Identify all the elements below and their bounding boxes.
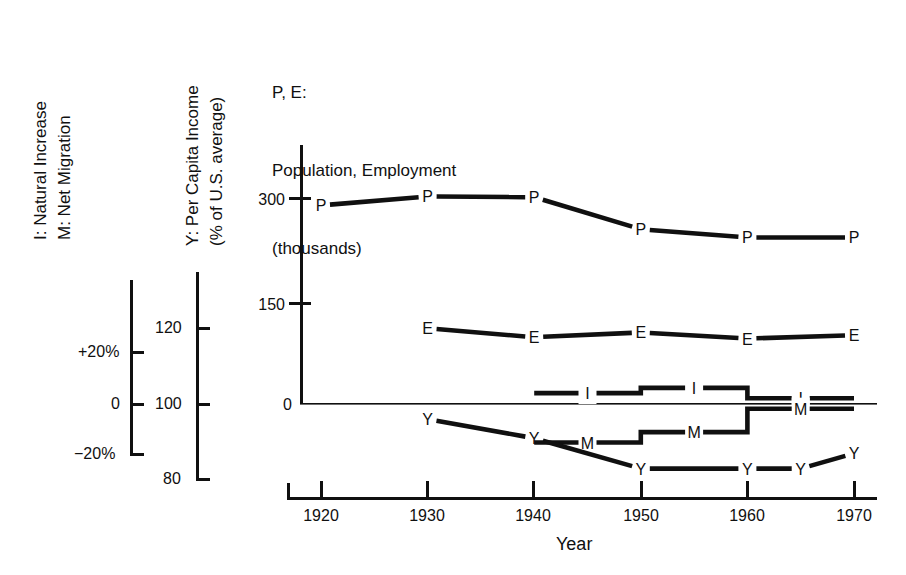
point-label-P: P — [635, 221, 646, 238]
point-label-M: M — [581, 435, 594, 452]
point-label-Y: Y — [422, 411, 433, 428]
x-tick-label-1970: 1970 — [836, 507, 872, 524]
point-label-E: E — [849, 327, 860, 344]
x-tick-1930 — [426, 481, 429, 499]
y-tick-300 — [289, 197, 311, 200]
series-P-segment — [330, 197, 419, 204]
point-label-I: I — [692, 380, 696, 397]
x-tick-label-1940: 1940 — [515, 507, 551, 524]
series-layer: PPPPPPEEEEEIIIMMMYYYYYY — [316, 188, 860, 477]
series-P-segment — [543, 200, 632, 227]
series-E-segment — [437, 329, 526, 336]
x-tick-1920 — [320, 481, 323, 499]
series-P-segment — [650, 230, 739, 237]
point-label-Y: Y — [635, 461, 646, 478]
series-Y-segment — [436, 421, 525, 437]
x-tick-label-1930: 1930 — [409, 507, 445, 524]
series-Y-segment — [809, 456, 845, 466]
chart-figure: I: Natural Increase M: Net Migration +20… — [0, 0, 906, 575]
series-E-segment — [543, 333, 632, 337]
main-plot: 300 150 0 1920 1930 1940 1950 1960 1970 … — [0, 0, 906, 575]
point-label-Y: Y — [849, 445, 860, 462]
point-label-E: E — [635, 324, 646, 341]
point-label-Y: Y — [529, 430, 540, 447]
point-label-P: P — [422, 188, 433, 205]
x-tick-label-1960: 1960 — [729, 507, 765, 524]
series-E-segment — [756, 335, 845, 338]
y-tick-label-150: 150 — [258, 296, 285, 313]
x-tick-1970 — [853, 481, 856, 499]
point-label-P: P — [742, 229, 753, 246]
point-label-M: M — [794, 401, 807, 418]
point-label-P: P — [529, 189, 540, 206]
series-E: EEEEE — [422, 320, 859, 347]
x-tick-1960 — [746, 481, 749, 499]
series-P: PPPPPP — [316, 188, 860, 246]
series-P-segment — [437, 197, 526, 198]
point-label-I: I — [585, 385, 589, 402]
point-label-E: E — [422, 320, 433, 337]
x-tick-1940 — [532, 481, 535, 499]
y-tick-label-300: 300 — [258, 191, 285, 208]
x-tick-label-1920: 1920 — [303, 507, 339, 524]
point-label-E: E — [529, 329, 540, 346]
point-label-E: E — [742, 331, 753, 348]
y-axis-line — [300, 145, 303, 403]
point-label-Y: Y — [742, 461, 753, 478]
x-axis-line — [287, 497, 877, 500]
point-label-M: M — [687, 424, 700, 441]
x-tick-1950 — [640, 481, 643, 499]
point-label-Y: Y — [795, 461, 806, 478]
point-label-P: P — [316, 197, 327, 214]
x-tick-label-1950: 1950 — [623, 507, 659, 524]
series-M: MMM — [534, 398, 854, 454]
x-axis-title: Year — [556, 534, 592, 555]
y-tick-label-0: 0 — [283, 396, 292, 413]
y-tick-150 — [289, 302, 311, 305]
series-E-segment — [650, 333, 739, 338]
point-label-P: P — [849, 229, 860, 246]
x-axis-left-cap — [287, 483, 290, 499]
